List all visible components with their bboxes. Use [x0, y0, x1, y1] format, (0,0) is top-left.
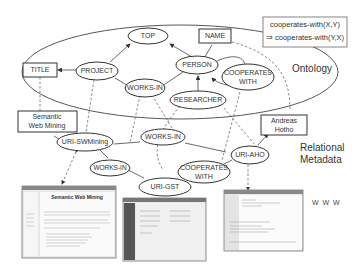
attr-name[interactable]: NAME: [199, 29, 231, 43]
node-works-in-upper[interactable]: WORKS-IN: [141, 129, 185, 145]
webpage-swmining-screenshot[interactable]: Semantic Web Mining: [22, 186, 116, 258]
svg-text:COOPERATES: COOPERATES: [180, 164, 228, 171]
svg-text:NAME: NAME: [205, 32, 226, 39]
svg-text:URI-SWMining: URI-SWMining: [62, 138, 108, 146]
node-project[interactable]: PROJECT: [76, 62, 118, 80]
axiom-line-2: ⇒ cooperates-with(Y,X): [266, 33, 345, 42]
node-works-in[interactable]: WORKS-IN: [125, 79, 165, 97]
node-uri-aho[interactable]: URI-AHO: [231, 146, 269, 164]
webpage-gst-screenshot[interactable]: [123, 198, 206, 261]
attr-title[interactable]: TITLE: [23, 63, 57, 77]
node-cooperates-with-instance[interactable]: COOPERATES WITH: [178, 161, 230, 183]
webpage-aho-screenshot[interactable]: [224, 190, 303, 251]
svg-text:WORKS-IN: WORKS-IN: [145, 133, 181, 140]
svg-text:Semantic: Semantic: [32, 113, 62, 120]
semantic-web-mining-diagram: cooperates-with(X,Y) ⇒ cooperates-with(Y…: [0, 0, 362, 277]
svg-text:WORKS-IN: WORKS-IN: [93, 164, 127, 171]
metadata-label-line-1: Relational: [300, 142, 344, 153]
svg-text:COOPERATES: COOPERATES: [224, 69, 272, 76]
svg-text:Semantic Web Mining: Semantic Web Mining: [51, 194, 103, 200]
node-person[interactable]: PERSON: [176, 56, 218, 74]
axiom-line-1: cooperates-with(X,Y): [270, 20, 341, 29]
svg-text:PROJECT: PROJECT: [81, 67, 114, 74]
svg-text:URI-AHO: URI-AHO: [235, 151, 265, 158]
node-uri-swmining[interactable]: URI-SWMining: [57, 133, 113, 151]
node-uri-gst[interactable]: URI-GST: [139, 178, 191, 196]
literal-andreas-hotho[interactable]: Andreas Hotho: [261, 115, 307, 135]
svg-text:WITH: WITH: [195, 173, 213, 180]
svg-text:WITH: WITH: [239, 78, 257, 85]
node-cooperates-with[interactable]: COOPERATES WITH: [222, 64, 274, 90]
svg-text:RESEARCHER: RESEARCHER: [174, 96, 223, 103]
svg-text:Web Mining: Web Mining: [29, 122, 66, 130]
node-works-in-lower[interactable]: WORKS-IN: [90, 160, 130, 176]
node-top[interactable]: TOP: [128, 28, 168, 44]
node-researcher[interactable]: RESEARCHER: [170, 91, 226, 109]
svg-text:Andreas: Andreas: [271, 117, 298, 124]
svg-text:Hotho: Hotho: [275, 126, 294, 133]
svg-text:WORKS-IN: WORKS-IN: [127, 84, 163, 91]
ontology-label: Ontology: [292, 63, 332, 74]
svg-text:TOP: TOP: [141, 32, 156, 39]
svg-text:PERSON: PERSON: [182, 61, 212, 68]
svg-text:TITLE: TITLE: [30, 66, 49, 73]
www-label: W W W: [312, 199, 341, 206]
axiom-box: cooperates-with(X,Y) ⇒ cooperates-with(Y…: [263, 17, 347, 47]
metadata-label-line-2: Metadata: [300, 154, 342, 165]
literal-semantic-web-mining[interactable]: Semantic Web Mining: [18, 111, 77, 132]
svg-text:URI-GST: URI-GST: [151, 183, 181, 190]
